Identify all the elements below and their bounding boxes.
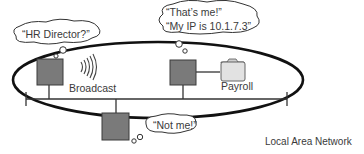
lan-label: Local Area Network [265, 136, 353, 147]
sender-host-icon [37, 59, 63, 85]
network-bus [26, 92, 287, 106]
payroll-label: Payroll [221, 80, 253, 92]
broadcast-label: Broadcast [69, 82, 116, 94]
lan-diagram: Payroll Broadcast “HR Director?” “That’s… [0, 0, 364, 154]
responder-bubble-line1: “That’s me!” [166, 6, 222, 18]
broadcast-waves-icon [81, 54, 97, 80]
other-host-icon [102, 113, 129, 140]
other-bubble-text: “Not me!” [153, 119, 197, 131]
payroll-folder-icon [221, 59, 245, 81]
responder-host-icon [170, 60, 196, 85]
sender-bubble-text: “HR Director?” [22, 28, 90, 40]
responder-bubble-line2: “My IP is 10.1.7.3” [166, 20, 252, 32]
